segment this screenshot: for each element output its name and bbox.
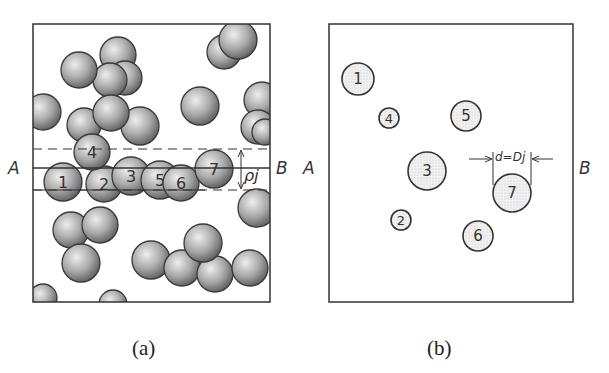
sphere-number-2: 2: [99, 175, 109, 194]
sphere-number-1: 1: [58, 173, 68, 192]
sphere-number-4: 4: [87, 143, 97, 162]
panel-a-label-b: B: [276, 158, 288, 178]
panel-b-caption: (b): [427, 336, 452, 361]
panel-b-label-a: A: [303, 158, 315, 178]
sphere: [99, 290, 127, 318]
sphere: [184, 224, 222, 262]
section-number-7: 7: [507, 184, 517, 202]
sphere: [25, 94, 61, 130]
section-number-1: 1: [353, 70, 363, 88]
section-number-5: 5: [461, 107, 471, 125]
thickness-label: ρj: [244, 166, 259, 185]
section-number-2: 2: [397, 213, 405, 228]
section-number-4: 4: [385, 111, 393, 126]
sphere: [181, 87, 219, 125]
panel-b: 1234567: [329, 24, 573, 302]
sphere-number-3: 3: [126, 167, 136, 186]
panel-a-label-a: A: [8, 158, 20, 178]
sphere-number-7: 7: [209, 160, 219, 179]
panel-a: 1234567: [25, 21, 280, 318]
section-number-3: 3: [422, 162, 432, 180]
panel-a-caption: (a): [132, 336, 155, 361]
figure-canvas: 1234567 1234567: [0, 0, 609, 373]
dimension-label: d=Dj: [495, 150, 525, 164]
panel-a-spheres: 1234567: [25, 21, 280, 318]
sphere: [61, 52, 97, 88]
panel-b-label-b: B: [579, 158, 591, 178]
sphere: [82, 207, 118, 243]
sphere: [62, 244, 100, 282]
section-number-6: 6: [473, 227, 483, 245]
sphere: [232, 250, 268, 286]
sphere: [219, 21, 257, 59]
sphere: [252, 119, 278, 145]
sphere: [93, 95, 129, 131]
sphere: [93, 63, 127, 97]
